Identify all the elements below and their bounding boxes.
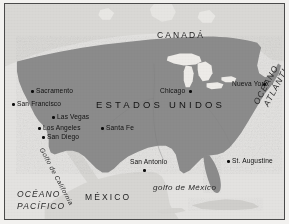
city-dot-las-vegas (52, 116, 55, 119)
city-dot-santa-fe (101, 127, 104, 130)
map-figure: CANADÁ ESTADOS UNIDOS MÉXICO OCÉANO PACÍ… (0, 0, 289, 224)
map-graphic (5, 4, 284, 219)
city-dot-chicago (189, 90, 192, 93)
city-dot-san-antonio (143, 169, 146, 172)
city-dot-sacramento (31, 90, 34, 93)
city-dot-san-diego (42, 136, 45, 139)
city-dot-los-angeles (38, 127, 41, 130)
map-frame: CANADÁ ESTADOS UNIDOS MÉXICO OCÉANO PACÍ… (4, 3, 285, 220)
city-dot-san-francisco (12, 103, 15, 106)
city-dot-nueva-york (263, 83, 266, 86)
city-dot-st-augustine (227, 160, 230, 163)
